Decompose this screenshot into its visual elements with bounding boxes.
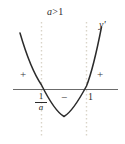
sign-plus-right: +: [97, 69, 103, 80]
sign-plus-left: +: [20, 69, 26, 80]
condition-label: a>1: [47, 7, 64, 17]
curve-label-y-prime: y': [99, 20, 106, 30]
fraction-denominator: a: [35, 103, 47, 112]
sign-chart-canvas: [0, 0, 125, 144]
sign-chart-figure: a>1 y' + − + 1 a 1: [0, 0, 125, 144]
sign-minus-middle: −: [61, 92, 67, 103]
root-label-one-over-a: 1 a: [35, 92, 47, 113]
condition-value: 1: [58, 6, 63, 17]
fraction-numerator: 1: [35, 92, 47, 101]
root-label-one: 1: [88, 92, 93, 102]
parabola-curve: [20, 27, 102, 117]
